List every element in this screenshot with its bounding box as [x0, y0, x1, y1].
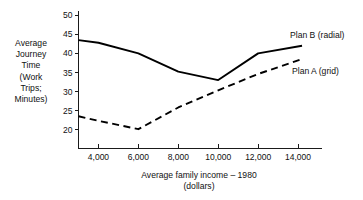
x-tick-label: 4,000 [88, 152, 110, 162]
series-line-plan-b [79, 40, 303, 80]
x-axis-title: Average family income – 1980 (dollars) [78, 170, 320, 192]
y-tick-label: 25 [63, 106, 73, 116]
y-tick-label: 20 [63, 125, 73, 135]
x-tick-label: 6,000 [128, 152, 150, 162]
y-tick-label: 30 [63, 87, 73, 97]
legend-label-plan-a: Plan A (grid) [292, 66, 339, 77]
y-tick-label: 40 [63, 48, 73, 58]
x-tick-label: 8,000 [168, 152, 190, 162]
chart-figure: 20253035404550 4,0006,0008,00010,00012,0… [0, 0, 363, 200]
y-axis-title: Average Journey Time (Work Trips; Minute… [2, 38, 60, 105]
x-tick-label: 10,000 [205, 152, 231, 162]
y-tick-label: 35 [63, 68, 73, 78]
legend-label-plan-b: Plan B (radial) [290, 30, 344, 41]
y-tick-label: 50 [63, 10, 73, 20]
x-tick-label: 12,000 [245, 152, 271, 162]
y-tick-label: 45 [63, 29, 73, 39]
x-tick-label: 14,000 [285, 152, 311, 162]
x-tick-group: 4,0006,0008,00010,00012,00014,000 [88, 144, 312, 162]
axes-group [79, 11, 323, 149]
series-group [79, 36, 303, 130]
y-tick-group: 20253035404550 [63, 10, 78, 134]
series-line-plan-a [79, 59, 303, 129]
